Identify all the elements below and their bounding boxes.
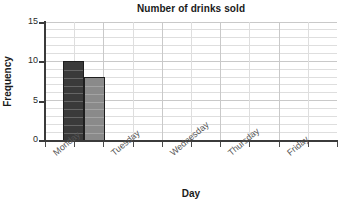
bar-chart: Number of drinks sold Frequency 151050 M… — [0, 0, 350, 204]
y-axis-title-text: Frequency — [2, 56, 13, 107]
x-axis-tick — [103, 142, 104, 147]
vertical-gridline — [220, 22, 221, 140]
bar — [63, 61, 84, 140]
bar-gridline-overlay — [64, 62, 83, 140]
vertical-gridline — [162, 22, 163, 140]
x-axis-tick — [220, 142, 221, 147]
bar — [84, 77, 105, 140]
y-axis-tick-label: 15 — [12, 16, 38, 26]
vertical-gridline — [279, 22, 280, 140]
x-axis-tick — [279, 142, 280, 147]
y-axis-tick — [39, 22, 45, 24]
x-axis-tick — [45, 142, 46, 147]
y-axis-tick — [39, 61, 45, 63]
bar-gridline-overlay — [85, 78, 104, 140]
y-axis-tick-label: 0 — [12, 134, 38, 144]
x-axis-tick — [337, 142, 338, 147]
x-axis-title: Day — [45, 188, 337, 199]
y-axis-line — [44, 21, 46, 142]
y-axis-tick — [39, 101, 45, 103]
y-axis-tick-label: 5 — [12, 95, 38, 105]
x-axis-tick — [162, 142, 163, 147]
y-axis-tick-label: 10 — [12, 55, 38, 65]
vertical-gridline — [191, 22, 192, 140]
vertical-gridline — [308, 22, 309, 140]
y-axis-title: Frequency — [0, 34, 14, 128]
plot-area — [45, 22, 337, 140]
chart-title: Number of drinks sold — [45, 3, 337, 14]
vertical-gridline — [133, 22, 134, 140]
vertical-gridline — [249, 22, 250, 140]
